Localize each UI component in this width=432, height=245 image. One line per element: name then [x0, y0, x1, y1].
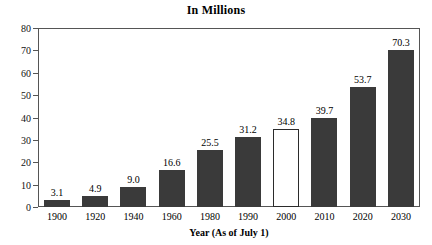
bar-slot: 16.6	[153, 28, 191, 207]
bar-value-label: 31.2	[239, 124, 257, 135]
bar-value-label: 53.7	[354, 74, 372, 85]
bar-value-label: 3.1	[51, 187, 64, 198]
x-tick-label: 2000	[276, 211, 296, 222]
x-tick-label: 1900	[47, 211, 67, 222]
x-tick-label: 1980	[200, 211, 220, 222]
bar-value-label: 34.8	[278, 116, 296, 127]
x-tick-label: 2030	[391, 211, 411, 222]
x-tick-label: 1990	[238, 211, 258, 222]
x-tick-label: 2010	[315, 211, 335, 222]
bar	[44, 200, 70, 207]
y-tick-label: 20	[5, 157, 31, 168]
y-tick-label: 0	[5, 202, 31, 213]
bar-slot: 9.0	[114, 28, 152, 207]
bar-slot: 34.8	[267, 28, 305, 207]
x-tick-label: 1940	[124, 211, 144, 222]
bar-value-label: 4.9	[89, 183, 102, 194]
bar	[388, 50, 414, 207]
chart-page: In Millions 01020304050607080 3.14.99.01…	[0, 0, 432, 245]
y-tick-label: 80	[5, 23, 31, 34]
bar-slot: 31.2	[229, 28, 267, 207]
x-axis-title: Year (As of July 1)	[38, 227, 420, 238]
bar-slot: 4.9	[76, 28, 114, 207]
bar-value-label: 70.3	[392, 37, 410, 48]
y-tick-mark	[33, 207, 38, 208]
bar	[311, 118, 337, 207]
y-tick-label: 40	[5, 112, 31, 123]
bar	[159, 170, 185, 207]
bar	[197, 150, 223, 207]
bar-slot: 39.7	[305, 28, 343, 207]
bar-value-label: 39.7	[316, 105, 334, 116]
bar	[82, 196, 108, 207]
x-tick-label: 1920	[85, 211, 105, 222]
chart-title: In Millions	[0, 3, 432, 18]
y-tick-label: 50	[5, 90, 31, 101]
bar-value-label: 25.5	[201, 137, 219, 148]
x-tick-label: 2020	[353, 211, 373, 222]
y-tick-label: 30	[5, 134, 31, 145]
bar-highlighted	[273, 129, 299, 207]
bar	[235, 137, 261, 207]
bar	[120, 187, 146, 207]
x-tick-label: 1960	[162, 211, 182, 222]
bar-value-label: 16.6	[163, 157, 181, 168]
bar-value-label: 9.0	[127, 174, 140, 185]
bar-series: 3.14.99.016.625.531.234.839.753.770.3	[38, 28, 420, 207]
y-tick-label: 70	[5, 45, 31, 56]
y-tick-label: 60	[5, 67, 31, 78]
bar-slot: 3.1	[38, 28, 76, 207]
bar-slot: 25.5	[191, 28, 229, 207]
bar-slot: 53.7	[344, 28, 382, 207]
bar-slot: 70.3	[382, 28, 420, 207]
bar	[350, 87, 376, 207]
y-tick-label: 10	[5, 179, 31, 190]
